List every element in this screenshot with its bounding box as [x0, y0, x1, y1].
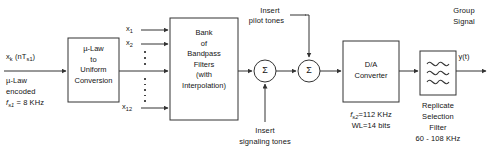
- insert-pilot-tones-line1: Insert: [247, 6, 293, 16]
- filter-caption-bandwidth: 60 - 108 KHz: [399, 134, 477, 144]
- da-converter-line-2: Converter: [343, 71, 399, 82]
- input-encoding-line2: encoded: [6, 87, 35, 97]
- mu-law-converter-label: µ-Law to Uniform Conversion: [68, 44, 119, 86]
- filterbank-line-6: Interpolation): [170, 81, 238, 92]
- input-sample-rate: fs1 = 8 KHz: [6, 98, 44, 109]
- channel-ellipsis-upper: [143, 51, 147, 65]
- channel-ellipsis-lower: [143, 78, 147, 102]
- summer-signaling-symbol: Σ: [255, 65, 275, 75]
- mu-law-line-4: Conversion: [68, 76, 119, 87]
- output-group-line1: Group: [440, 6, 488, 16]
- bandpass-filter-bank-label: Bank of Bandpass Filters (with Interpola…: [170, 28, 238, 91]
- da-converter-word-length: WL=14 bits: [336, 121, 406, 131]
- wave-icon: [425, 57, 451, 89]
- filterbank-line-1: Bank: [170, 28, 238, 39]
- insert-signaling-tones-line2: signaling tones: [229, 137, 301, 147]
- filter-caption-line2: Selection: [403, 112, 473, 122]
- mu-law-line-1: µ-Law: [68, 44, 119, 55]
- insert-pilot-tones-line2: pilot tones: [240, 16, 293, 26]
- input-signal-label: xk (nTs1): [6, 52, 35, 63]
- da-converter-line-1: D/A: [343, 60, 399, 71]
- filterbank-line-5: (with: [170, 70, 238, 81]
- insert-signaling-tones-line1: Insert: [242, 126, 288, 136]
- channel-input-x1-label: x1: [126, 24, 133, 35]
- input-encoding-line1: µ-Law: [6, 76, 27, 86]
- output-group-line2: Signal: [440, 17, 488, 27]
- filterbank-line-2: of: [170, 39, 238, 50]
- filterbank-line-3: Bandpass: [170, 49, 238, 60]
- mu-law-line-2: to: [68, 55, 119, 66]
- mu-law-line-3: Uniform: [68, 65, 119, 76]
- channel-input-x12-label: x12: [122, 102, 132, 113]
- da-converter-sample-rate: fs2=112 KHz: [336, 110, 406, 121]
- summer-pilot-symbol: Σ: [299, 65, 319, 75]
- connector-pilot-into-summer: [305, 15, 309, 57]
- filter-caption-line3: Filter: [403, 123, 473, 133]
- output-signal-label: y(t): [444, 52, 484, 62]
- da-converter-label: D/A Converter: [343, 60, 399, 81]
- filterbank-line-4: Filters: [170, 60, 238, 71]
- filter-caption-line1: Replicate: [403, 101, 473, 111]
- channel-input-x2-label: x2: [126, 38, 133, 49]
- block-diagram-canvas: xk (nTs1) µ-Law encoded fs1 = 8 KHz µ-La…: [0, 0, 490, 158]
